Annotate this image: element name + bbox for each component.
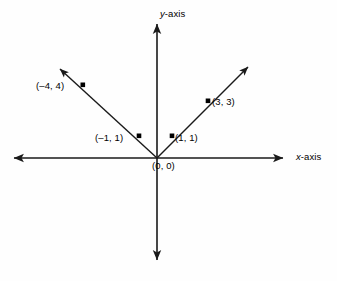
- point-marker-neg1-1: [137, 134, 142, 139]
- point-marker-3-3: [206, 99, 211, 104]
- y-axis-label: y-axis: [160, 8, 185, 19]
- point-label-origin: (0, 0): [152, 160, 175, 171]
- coordinate-plane-figure: y-axis x-axis (–4, 4) (3, 3) (–1, 1) (1,…: [0, 0, 337, 281]
- point-marker-1-1: [170, 134, 175, 139]
- graph-canvas: [0, 0, 337, 281]
- point-label-neg4-4: (–4, 4): [36, 80, 64, 91]
- x-axis-label-suffix: -axis: [301, 151, 322, 162]
- point-label-neg1-1: (–1, 1): [95, 132, 123, 143]
- point-marker-neg4-4: [81, 83, 86, 88]
- point-label-1-1: (1, 1): [175, 132, 198, 143]
- point-label-3-3: (3, 3): [212, 96, 235, 107]
- ray-upper-right: [157, 67, 248, 158]
- x-axis-label: x-axis: [296, 151, 321, 162]
- ray-upper-left: [60, 69, 157, 158]
- y-axis-label-suffix: -axis: [165, 8, 186, 19]
